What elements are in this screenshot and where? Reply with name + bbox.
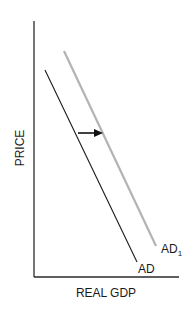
ad1-curve: [64, 51, 156, 246]
ad1-label: AD1: [161, 242, 183, 258]
y-axis-title: PRICE: [13, 130, 27, 167]
x-axis-title: REAL GDP: [76, 286, 136, 300]
ad-shift-chart: AD AD1 REAL GDP PRICE: [0, 0, 190, 313]
ad-label: AD: [138, 262, 155, 276]
shift-arrow-icon: [78, 129, 103, 137]
ad-curve: [45, 70, 137, 262]
